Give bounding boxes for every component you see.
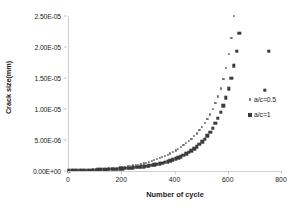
data-point [209, 114, 211, 116]
data-point [222, 78, 224, 80]
data-point [230, 37, 232, 39]
dot-marker-icon [246, 98, 254, 101]
crack-growth-scatter-chart: Crack size(mm) 0.00E+005.00E-061.00E-051… [0, 0, 307, 211]
data-point [238, 32, 241, 35]
data-point [230, 76, 233, 79]
data-point [185, 142, 187, 144]
data-point [235, 49, 238, 52]
square-marker-icon [246, 113, 254, 117]
data-point [222, 104, 225, 107]
y-tick-label: 2.50E-05 [35, 13, 61, 20]
data-point [180, 146, 182, 148]
data-point [217, 96, 219, 98]
data-point [206, 134, 209, 137]
data-point [166, 154, 168, 156]
y-tick-mark [64, 109, 67, 110]
y-tick-mark [64, 16, 67, 17]
data-point [190, 138, 192, 140]
data-point [225, 67, 227, 69]
data-point [204, 122, 206, 124]
data-point [220, 87, 222, 89]
x-axis-tick-labels: 0200400600800 [68, 171, 282, 191]
data-point [203, 137, 206, 140]
data-point [227, 87, 230, 90]
data-point [196, 132, 198, 134]
data-point [224, 96, 227, 99]
data-point [233, 15, 235, 17]
data-point [214, 122, 217, 125]
data-point [212, 108, 214, 110]
x-tick-mark [121, 171, 122, 174]
x-tick-label: 800 [275, 176, 286, 183]
y-tick-label: 1.00E-05 [35, 106, 61, 113]
y-axis-tick-labels: 0.00E+005.00E-061.00E-051.50E-052.00E-05… [16, 0, 64, 180]
data-point [169, 152, 171, 154]
x-tick-mark [228, 171, 229, 174]
data-point [177, 148, 179, 150]
data-point [208, 130, 211, 133]
x-tick-label: 200 [116, 176, 127, 183]
y-axis-title-text: Crack size(mm) [5, 61, 14, 114]
x-tick-mark [68, 171, 69, 174]
data-point [174, 149, 176, 151]
data-point [198, 129, 200, 131]
x-tick-mark [175, 171, 176, 174]
x-axis-title: Number of cycle [68, 190, 282, 199]
legend-item-ac1: a/c=1 [246, 107, 307, 122]
x-tick-label: 0 [66, 176, 70, 183]
data-point [211, 126, 214, 129]
legend-item-ac05: a/c=0.5 [246, 92, 307, 107]
x-tick-label: 600 [222, 176, 233, 183]
y-tick-label: 0.00E+00 [33, 168, 61, 175]
data-point [214, 102, 216, 104]
y-tick-label: 2.00E-05 [35, 44, 61, 51]
x-tick-mark [281, 171, 282, 174]
data-point [228, 53, 230, 55]
legend-label-ac1: a/c=1 [254, 111, 271, 118]
data-point [206, 118, 208, 120]
legend-label-ac05: a/c=0.5 [254, 96, 276, 103]
data-point [193, 135, 195, 137]
y-tick-mark [64, 47, 67, 48]
data-point [219, 111, 222, 114]
x-tick-label: 400 [169, 176, 180, 183]
data-point [188, 140, 190, 142]
y-tick-label: 1.50E-05 [35, 75, 61, 82]
data-point [216, 117, 219, 120]
y-tick-label: 5.00E-06 [35, 137, 61, 144]
y-tick-mark [64, 78, 67, 79]
data-point [232, 64, 235, 67]
data-point [267, 50, 270, 53]
data-point [182, 144, 184, 146]
data-point [172, 151, 174, 153]
data-point [201, 126, 203, 128]
y-tick-mark [64, 140, 67, 141]
chart-legend: a/c=0.5 a/c=1 [246, 92, 307, 122]
